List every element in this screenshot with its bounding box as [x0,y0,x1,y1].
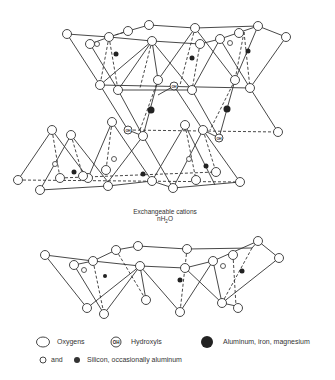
legend-connector-and: and [51,356,63,363]
svg-text:OH: OH [113,340,120,345]
svg-text:OH: OH [216,137,222,141]
svg-text:OH: OH [125,129,131,133]
legend-label-hydroxyls: Hydroxyls [131,338,162,345]
interlayer-caption: Exchangeable cations nH2O [105,208,225,224]
legend-label-cations: Aluminum, iron, magnesium [223,338,310,345]
legend-label-oxygens: Oxygens [57,338,85,345]
caption-line-1: Exchangeable cations [105,208,225,215]
svg-text:OH: OH [171,85,177,89]
caption-line-2: nH2O [105,215,225,224]
clay-structure-diagram: OH OH OH OH [0,0,335,380]
legend-label-silicon: Silicon, occasionally aluminum [87,356,182,363]
